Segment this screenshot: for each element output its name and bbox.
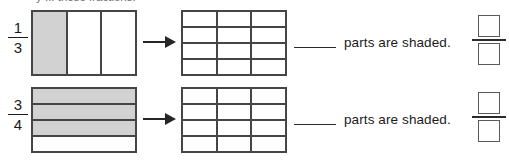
grid-row xyxy=(183,42,285,58)
source-fraction-model xyxy=(31,87,137,153)
fraction-denominator: 4 xyxy=(8,116,28,133)
grid-cell[interactable] xyxy=(183,28,216,42)
grid-cell[interactable] xyxy=(250,60,285,74)
grid-cell[interactable] xyxy=(183,105,216,119)
right-arrow-icon xyxy=(143,35,177,49)
grid-cell[interactable] xyxy=(216,28,251,42)
grid-cell[interactable] xyxy=(216,121,251,135)
grid-cell[interactable] xyxy=(250,12,285,26)
numerator-answer-box[interactable] xyxy=(478,92,500,114)
answer-blank-line[interactable] xyxy=(294,124,336,125)
grid-cell[interactable] xyxy=(216,12,251,26)
sentence-label: parts are shaded. xyxy=(344,35,451,50)
grid-cell[interactable] xyxy=(183,137,216,151)
answer-box-fraction xyxy=(474,8,504,72)
model-part-shaded xyxy=(33,12,66,74)
grid-row xyxy=(183,12,285,26)
fraction-denominator: 3 xyxy=(8,39,28,56)
grid-cell[interactable] xyxy=(250,121,285,135)
model-part-shaded xyxy=(33,103,135,119)
arrow-shaft xyxy=(143,41,167,43)
grid-cell[interactable] xyxy=(183,121,216,135)
answer-sentence: parts are shaded. xyxy=(294,28,451,56)
grid-cell[interactable] xyxy=(250,137,285,151)
model-part-shaded xyxy=(33,119,135,135)
grid-row xyxy=(183,103,285,119)
answer-fraction-bar xyxy=(472,116,506,118)
grid-cell[interactable] xyxy=(250,105,285,119)
grid-row xyxy=(183,89,285,103)
grid-row xyxy=(183,135,285,151)
grid-cell[interactable] xyxy=(250,44,285,58)
sentence-label: parts are shaded. xyxy=(344,112,451,127)
grid-cell[interactable] xyxy=(216,44,251,58)
model-part xyxy=(66,12,101,74)
numerator-answer-box[interactable] xyxy=(478,15,500,37)
denominator-answer-box[interactable] xyxy=(478,120,500,142)
right-arrow-icon xyxy=(143,112,177,126)
denominator-answer-box[interactable] xyxy=(478,43,500,65)
fraction-numerator: 3 xyxy=(8,97,28,114)
fraction-numerator: 1 xyxy=(8,20,28,37)
grid-row xyxy=(183,26,285,42)
answer-blank-line[interactable] xyxy=(294,47,336,48)
answer-fraction-bar xyxy=(472,39,506,41)
answer-sentence: parts are shaded. xyxy=(294,105,451,133)
grid-cell[interactable] xyxy=(183,44,216,58)
problem-row: 1 3 xyxy=(0,4,509,80)
target-grid[interactable] xyxy=(181,10,287,76)
grid-cell[interactable] xyxy=(183,89,216,103)
fraction-bar xyxy=(8,114,28,116)
grid-row xyxy=(183,58,285,74)
grid-row xyxy=(183,119,285,135)
model-part xyxy=(33,135,135,151)
fraction-bar xyxy=(8,37,28,39)
arrow-head xyxy=(165,113,176,125)
problem-row: 3 4 xyxy=(0,81,509,157)
arrow-shaft xyxy=(143,118,167,120)
grid-cell[interactable] xyxy=(216,60,251,74)
grid-cell[interactable] xyxy=(183,12,216,26)
grid-cell[interactable] xyxy=(216,105,251,119)
worksheet-page: y ... these fractions. 1 3 xyxy=(0,0,509,161)
model-part-shaded xyxy=(33,89,135,103)
target-grid[interactable] xyxy=(181,87,287,153)
grid-cell[interactable] xyxy=(216,137,251,151)
model-part xyxy=(100,12,135,74)
fraction-label: 1 3 xyxy=(8,20,28,56)
grid-cell[interactable] xyxy=(216,89,251,103)
answer-box-fraction xyxy=(474,85,504,149)
grid-cell[interactable] xyxy=(250,89,285,103)
source-fraction-model xyxy=(31,10,137,76)
fraction-label: 3 4 xyxy=(8,97,28,133)
grid-cell[interactable] xyxy=(250,28,285,42)
arrow-head xyxy=(165,36,176,48)
grid-cell[interactable] xyxy=(183,60,216,74)
